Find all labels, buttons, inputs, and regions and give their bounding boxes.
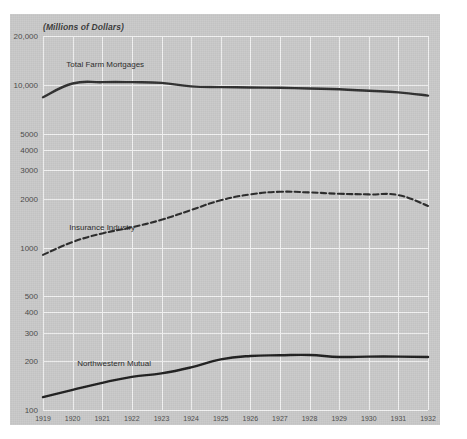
chart-card: (Millions of Dollars) 20,00010,000500040… (10, 14, 440, 425)
y-axis-tick-label: 400 (25, 308, 38, 317)
y-axis-tick-label: 3000 (20, 165, 38, 174)
x-axis-tick-label: 1927 (272, 415, 288, 422)
gridline-vertical (428, 36, 429, 410)
x-axis-tick-label: 1925 (213, 415, 229, 422)
y-axis-tick-label: 5000 (20, 129, 38, 138)
chart-units-label: (Millions of Dollars) (43, 22, 124, 32)
y-axis-tick-label: 4000 (20, 145, 38, 154)
x-axis-tick-label: 1928 (302, 415, 318, 422)
x-axis-tick-label: 1923 (154, 415, 170, 422)
x-axis-tick-label: 1931 (391, 415, 407, 422)
y-axis-tick-label: 1000 (20, 243, 38, 252)
x-axis-tick-label: 1921 (94, 415, 110, 422)
series-label-insurance-industry: Insurance Industry (69, 223, 135, 232)
gridline-horizontal (43, 410, 428, 411)
series-label-northwestern-mutual: Northwestern Mutual (77, 358, 151, 367)
x-axis-tick-label: 1930 (361, 415, 377, 422)
x-axis-tick-label: 1926 (243, 415, 259, 422)
x-axis-tick-label: 1932 (420, 415, 436, 422)
x-axis-tick-label: 1929 (331, 415, 347, 422)
series-line-total-farm-mortgages (43, 82, 428, 98)
plot-area: 20,00010,0005000400030002000100050040030… (43, 36, 428, 410)
x-axis-tick-label: 1919 (35, 415, 51, 422)
y-axis-tick-label: 2000 (20, 194, 38, 203)
series-label-total-farm-mortgages: Total Farm Mortgages (66, 60, 144, 69)
y-axis-tick-label: 500 (25, 292, 38, 301)
x-axis-tick-label: 1922 (124, 415, 140, 422)
y-axis-tick-label: 20,000 (14, 32, 38, 41)
y-axis-tick-label: 200 (25, 357, 38, 366)
y-axis-tick-label: 100 (25, 406, 38, 415)
x-axis-tick-label: 1924 (183, 415, 199, 422)
y-axis-tick-label: 300 (25, 328, 38, 337)
x-axis-tick-label: 1920 (65, 415, 81, 422)
y-axis-tick-label: 10,000 (14, 80, 38, 89)
